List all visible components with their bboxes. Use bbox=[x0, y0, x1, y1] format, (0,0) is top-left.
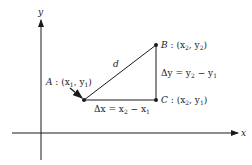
distance-diagram: y x A : (x1, y1) B : (x2, y2) C : (x2, y… bbox=[0, 0, 252, 165]
point-a bbox=[82, 98, 86, 102]
point-c-label: C : (x2, y1) bbox=[161, 95, 207, 106]
point-b bbox=[154, 43, 158, 47]
point-a-label: A : (x1, y1) bbox=[45, 77, 92, 88]
delta-y-label: Δy = y2 − y1 bbox=[161, 68, 217, 79]
x-axis-label: x bbox=[241, 128, 246, 138]
delta-x-label: Δx = x2 − x1 bbox=[94, 104, 150, 115]
hypotenuse-d bbox=[84, 45, 156, 100]
distance-label: d bbox=[113, 59, 119, 69]
point-a-pointer bbox=[70, 88, 82, 98]
point-c bbox=[154, 98, 158, 102]
y-axis-label: y bbox=[37, 7, 44, 17]
point-b-label: B : (x2, y2) bbox=[160, 40, 207, 51]
